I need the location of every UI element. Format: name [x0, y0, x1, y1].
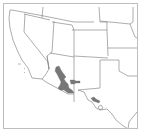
border-ca-mexico — [32, 78, 42, 79]
border-co-nm — [74, 56, 108, 58]
border-tx-mexico — [78, 90, 128, 129]
border-co-ks — [107, 30, 108, 56]
border-id-wy — [42, 7, 43, 18]
coast-tx-gulf — [128, 110, 138, 129]
border-mo-east — [135, 37, 138, 39]
state-borders — [9, 7, 138, 129]
map-frame: Species range map — [3, 3, 138, 129]
border-or-ca — [10, 10, 94, 22]
border-ia-mo — [130, 7, 133, 24]
border-wy-ne — [99, 7, 107, 30]
border-ut-az — [50, 53, 74, 57]
island — [24, 72, 25, 73]
border-sd-ne — [100, 21, 135, 37]
range-map — [4, 4, 138, 129]
channel-islands — [18, 64, 25, 73]
range-area-new-mexico — [70, 80, 80, 84]
coast-california — [9, 10, 32, 78]
border-nm-tx — [78, 60, 100, 90]
border-ca-az — [42, 56, 49, 79]
border-ut-north — [52, 22, 72, 25]
island — [24, 68, 25, 69]
border-ca-nv — [24, 14, 49, 69]
range-area-arizona — [55, 66, 74, 93]
range-areas — [55, 66, 100, 103]
border-ok-tx — [100, 60, 138, 76]
